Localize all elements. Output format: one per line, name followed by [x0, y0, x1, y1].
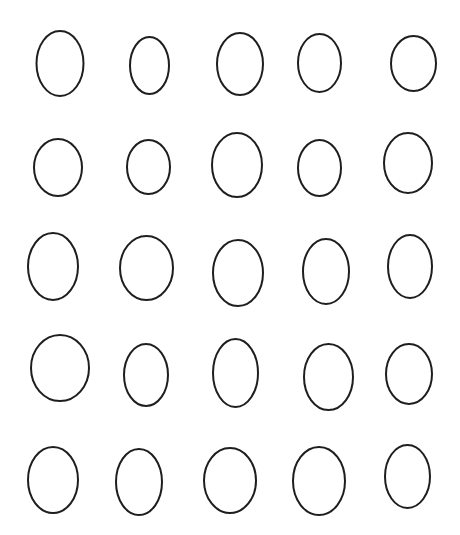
oval-grid-canvas	[0, 0, 460, 535]
